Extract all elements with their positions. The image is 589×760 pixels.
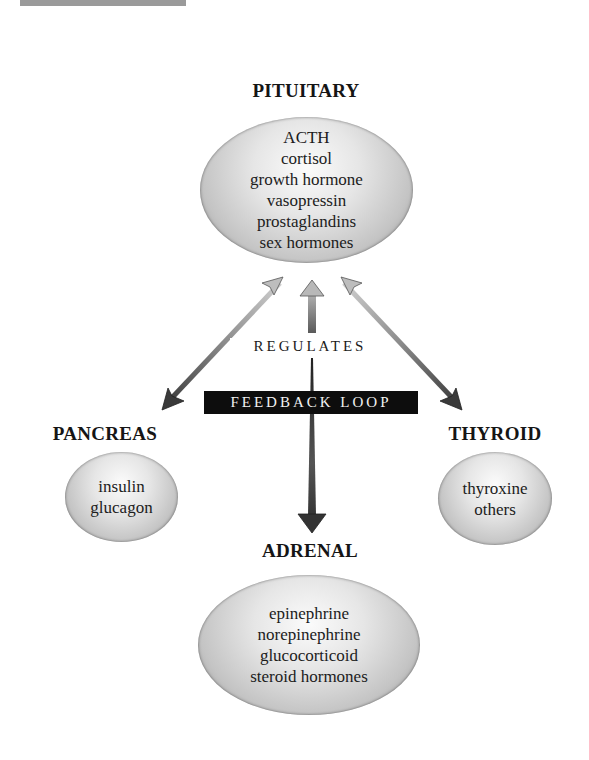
- pituitary-hormone: ACTH: [283, 127, 329, 148]
- pituitary-title: PITUITARY: [206, 80, 406, 102]
- pituitary-hormone: vasopressin: [267, 190, 346, 211]
- pancreas-node: insulin glucagon: [65, 452, 178, 542]
- arrow-down-to-adrenal: [298, 358, 326, 533]
- pancreas-title: PANCREAS: [30, 423, 180, 445]
- adrenal-node: epinephrine norepinephrine glucocorticoi…: [198, 575, 420, 715]
- thyroid-hormone: others: [474, 499, 516, 520]
- adrenal-hormone: norepinephrine: [258, 624, 361, 645]
- arrow-up-regulates: [300, 280, 324, 333]
- pancreas-hormone: glucagon: [90, 497, 152, 518]
- adrenal-hormone: steroid hormones: [250, 666, 368, 687]
- pituitary-hormone: cortisol: [281, 148, 332, 169]
- feedback-loop-label: FEEDBACK LOOP: [204, 391, 418, 414]
- thyroid-node: thyroxine others: [438, 452, 552, 545]
- pituitary-hormone: prostaglandins: [257, 211, 356, 232]
- pituitary-hormone: growth hormone: [250, 169, 363, 190]
- adrenal-hormone: epinephrine: [269, 603, 349, 624]
- thyroid-title: THYROID: [430, 423, 560, 445]
- adrenal-title: ADRENAL: [230, 540, 390, 562]
- pancreas-hormone: insulin: [98, 476, 144, 497]
- thyroid-hormone: thyroxine: [462, 478, 527, 499]
- pituitary-hormone: sex hormones: [260, 232, 354, 253]
- adrenal-hormone: glucocorticoid: [260, 645, 358, 666]
- regulates-label: REGULATES: [230, 338, 390, 355]
- pituitary-node: ACTH cortisol growth hormone vasopressin…: [200, 117, 413, 263]
